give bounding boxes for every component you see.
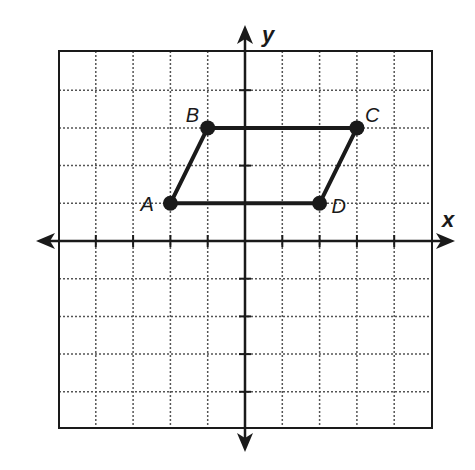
vertex-label-c: C	[365, 104, 380, 126]
vertex-label-d: D	[332, 195, 346, 217]
x-axis-label: x	[441, 207, 455, 232]
vertex-b	[200, 120, 215, 135]
y-axis-label: y	[261, 22, 276, 47]
parallelogram: ABCD	[139, 104, 380, 217]
vertex-c	[349, 120, 364, 135]
vertex-label-b: B	[186, 104, 199, 126]
vertex-label-a: A	[139, 193, 153, 215]
vertex-a	[163, 196, 178, 211]
coordinate-plane: ABCD y x	[0, 0, 475, 470]
vertex-d	[312, 196, 327, 211]
axes	[36, 25, 455, 452]
